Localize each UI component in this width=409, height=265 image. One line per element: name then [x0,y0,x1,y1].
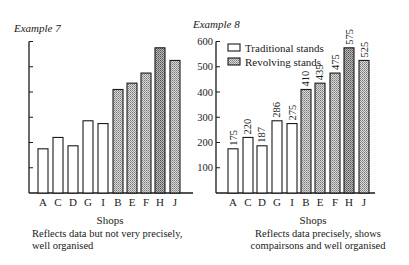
x-tick-label: J [173,196,178,208]
x-tick-label: C [244,196,251,208]
legend-swatch [228,58,240,65]
legend-label: Traditional stands [245,42,324,54]
x-tick-label: B [114,196,121,208]
x-tick-label: C [54,196,61,208]
example-8-caption-line-1: Reflects data precisely, shows [233,228,403,240]
example-8-caption-line-2: compairsons and well organised [233,240,403,252]
x-tick-label: G [273,196,281,208]
bar-I [98,124,108,193]
example-8-chart: 100200300400500600A175C220D187G286I275B4… [197,29,375,208]
bar-G [83,121,93,193]
legend-label: Revolving stands [245,56,321,68]
example-7-chart: ACDGIBEFHJ [29,42,193,209]
x-tick-label: D [258,196,266,208]
bar-C [53,137,63,193]
x-tick-label: E [129,196,136,208]
bar-F [330,73,340,193]
bar-value-label: 175 [228,130,239,146]
x-tick-label: A [39,196,47,208]
x-tick-label: A [229,196,237,208]
y-tick-label: 200 [197,137,213,148]
legend-item-revolving: Revolving stands [228,56,321,68]
bar-I [287,124,297,193]
bar-value-label: 525 [359,42,370,58]
legend-item-traditional: Traditional stands [228,42,324,54]
x-tick-label: D [69,196,77,208]
y-tick-label: 500 [197,61,213,72]
x-tick-label: H [156,196,164,208]
bar-G [272,121,282,193]
x-tick-label: F [332,196,338,208]
legend-swatch [228,44,240,51]
bar-B [301,89,311,193]
bar-B [113,89,123,193]
x-tick-label: F [143,196,149,208]
x-tick-label: E [317,196,324,208]
x-tick-label: I [290,196,294,208]
bar-D [68,146,78,193]
example-8-title: Example 8 [193,18,240,30]
bar-value-label: 286 [272,102,283,118]
y-tick-label: 400 [197,87,213,98]
bar-E [315,83,325,193]
bar-J [359,60,369,193]
bar-F [141,73,151,193]
bar-H [155,48,165,193]
bar-A [38,149,48,193]
bar-value-label: 220 [243,119,254,135]
example-7-title: Example 7 [14,22,61,34]
chart-canvas: ACDGIBEFHJ 100200300400500600A175C220D18… [0,0,409,265]
example-8-x-axis-label: Shops [283,214,343,226]
example-7-caption-line-1: Reflects data but not very precisely, [32,228,182,240]
x-tick-label: G [84,196,92,208]
x-tick-label: I [101,196,105,208]
bar-value-label: 575 [344,29,355,45]
bar-H [344,48,354,193]
y-tick-label: 300 [197,112,213,123]
x-tick-label: H [345,196,353,208]
x-tick-label: J [362,196,367,208]
y-tick-label: 100 [197,162,213,173]
bar-value-label: 275 [287,105,298,121]
bar-D [257,146,267,193]
bar-value-label: 187 [257,127,268,143]
example-7-caption-line-2: well organised [32,240,93,252]
example-7-x-axis-label: Shops [80,214,140,226]
bar-C [243,137,253,193]
bar-J [170,60,180,193]
bar-value-label: 410 [301,71,312,87]
bar-E [127,83,137,193]
y-tick-label: 600 [197,36,213,47]
bar-A [228,149,238,193]
figure: ACDGIBEFHJ 100200300400500600A175C220D18… [0,0,409,265]
x-tick-label: B [302,196,309,208]
bar-value-label: 475 [330,54,341,70]
